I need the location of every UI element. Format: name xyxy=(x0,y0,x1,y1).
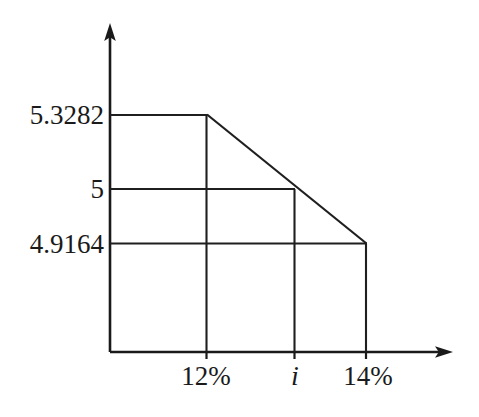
y-axis-label-top: 5.3282 xyxy=(0,102,104,129)
x-axis-label-i: i xyxy=(291,362,299,390)
x-axis-label-14pct: 14% xyxy=(343,363,393,390)
chart-canvas xyxy=(0,0,479,417)
interpolation-figure: 5.3282 5 4.9164 12% i 14% xyxy=(0,0,479,417)
y-axis-label-bottom: 4.9164 xyxy=(0,231,104,258)
x-axis-label-12pct: 12% xyxy=(181,363,231,390)
y-axis-label-middle: 5 xyxy=(0,176,104,203)
interpolation-segment xyxy=(207,115,367,244)
